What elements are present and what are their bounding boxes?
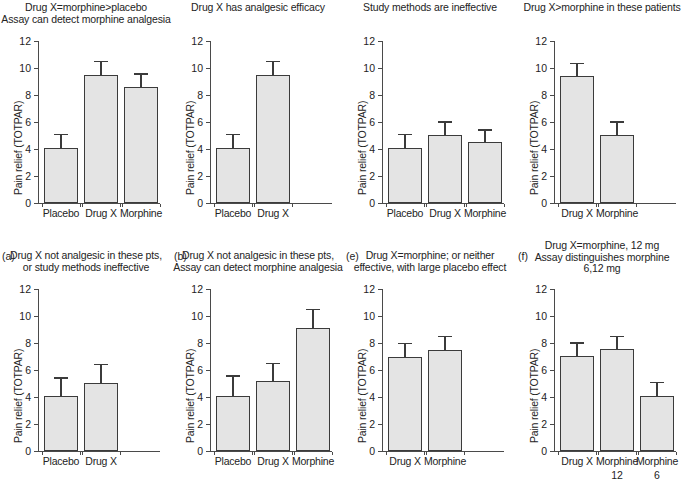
error-bar-stem [140, 73, 141, 87]
x-tick-label: Morphine [111, 208, 171, 219]
y-tick-mark [378, 41, 382, 42]
y-tick-mark [34, 289, 38, 290]
panel-title-g: Drug X=morphine; or neither effective, w… [344, 250, 516, 273]
y-tick-label: 10 [15, 311, 31, 321]
error-bar-cap [610, 336, 624, 337]
panel-title-b: Drug X has analgesic efficacy [172, 2, 344, 14]
bar [44, 148, 78, 203]
y-tick-mark [550, 68, 554, 69]
y-axis-line [554, 289, 555, 451]
x-tick-mark [558, 452, 559, 455]
x-tick-mark [80, 204, 81, 207]
y-tick-mark [378, 122, 382, 123]
panel-title-f: Drug X>morphine in these patients [516, 2, 688, 14]
plot-area-d: 024681012Pain relief (TOTPAR)PlaceboDrug… [172, 286, 344, 486]
panel-b: Drug X has analgesic efficacy(b)02468101… [172, 0, 344, 247]
x-tick-mark [82, 204, 83, 207]
y-tick-mark [550, 149, 554, 150]
y-tick-mark [550, 316, 554, 317]
y-tick-label: 10 [187, 63, 203, 73]
y-tick-mark [34, 316, 38, 317]
x-tick-label: Morphine [587, 208, 647, 219]
error-bar-stem [312, 309, 313, 329]
y-tick-label: 10 [15, 63, 31, 73]
x-tick-mark [80, 452, 81, 455]
y-tick-label: 12 [15, 284, 31, 294]
plot-area-a: 024681012Pain relief (TOTPAR)PlaceboDrug… [0, 38, 172, 238]
bar [600, 349, 634, 451]
x-tick-mark [426, 204, 427, 207]
figure-root: Drug X=morphine>placebo Assay can detect… [0, 0, 689, 495]
error-bar-cap [570, 342, 584, 343]
y-tick-mark [34, 68, 38, 69]
y-tick-label: 10 [531, 63, 547, 73]
y-tick-label: 0 [15, 446, 31, 456]
error-bar-stem [444, 336, 445, 350]
y-tick-mark [206, 176, 210, 177]
y-axis-line [38, 41, 39, 203]
panel-title-d: Drug X not analgesic in these pts, Assay… [172, 250, 344, 273]
y-tick-mark [378, 289, 382, 290]
bar [296, 328, 330, 451]
error-bar-stem [60, 377, 61, 395]
y-axis-label: Pain relief (TOTPAR) [356, 349, 368, 443]
y-tick-mark [378, 424, 382, 425]
panel-d: Drug X not analgesic in these pts, Assay… [172, 248, 344, 495]
x-tick-mark [252, 204, 253, 207]
y-tick-mark [206, 122, 210, 123]
y-tick-mark [550, 451, 554, 452]
bar [640, 396, 674, 451]
bar [428, 350, 462, 451]
bar [600, 135, 634, 203]
error-bar-cap [438, 336, 452, 337]
x-axis-line [554, 203, 676, 204]
error-bar-stem [232, 375, 233, 395]
error-bar-stem [656, 382, 657, 396]
panel-e: Study methods are ineffective(e)02468101… [344, 0, 516, 247]
x-axis-line [38, 203, 160, 204]
y-tick-mark [378, 95, 382, 96]
y-tick-label: 10 [187, 311, 203, 321]
y-axis-label: Pain relief (TOTPAR) [356, 101, 368, 195]
error-bar-cap [94, 364, 108, 365]
y-axis-label: Pain relief (TOTPAR) [12, 101, 24, 195]
y-axis-label: Pain relief (TOTPAR) [184, 101, 196, 195]
panel-title-h: Drug X=morphine, 12 mg Assay distinguish… [516, 240, 688, 275]
bar [388, 357, 422, 451]
y-tick-mark [34, 397, 38, 398]
y-tick-mark [378, 451, 382, 452]
error-bar-cap [266, 61, 280, 62]
y-tick-mark [378, 149, 382, 150]
x-axis-line [382, 451, 504, 452]
y-tick-mark [378, 68, 382, 69]
y-tick-mark [550, 95, 554, 96]
y-tick-mark [378, 316, 382, 317]
y-tick-mark [34, 41, 38, 42]
y-tick-mark [550, 343, 554, 344]
y-tick-mark [206, 289, 210, 290]
y-tick-label: 12 [531, 284, 547, 294]
y-tick-mark [34, 343, 38, 344]
panel-g: Drug X=morphine; or neither effective, w… [344, 248, 516, 495]
y-tick-label: 12 [359, 284, 375, 294]
y-axis-line [382, 41, 383, 203]
y-tick-mark [378, 176, 382, 177]
error-bar-cap [610, 121, 624, 122]
bar [84, 75, 118, 203]
error-bar-cap [478, 129, 492, 130]
y-tick-mark [550, 370, 554, 371]
error-bar-cap [306, 309, 320, 310]
y-tick-mark [206, 203, 210, 204]
y-tick-mark [206, 41, 210, 42]
x-tick-mark [292, 204, 293, 207]
y-tick-label: 12 [187, 284, 203, 294]
bar [84, 383, 118, 451]
bar [124, 87, 158, 203]
error-bar-cap [226, 134, 240, 135]
y-tick-mark [34, 176, 38, 177]
y-tick-mark [206, 397, 210, 398]
y-tick-mark [206, 316, 210, 317]
error-bar-stem [444, 121, 445, 135]
y-axis-label: Pain relief (TOTPAR) [528, 349, 540, 443]
x-tick-sublabel: 6 [627, 469, 687, 481]
